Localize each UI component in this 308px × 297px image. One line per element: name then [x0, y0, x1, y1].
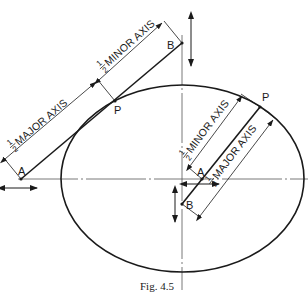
- trammel-1: 1 2 MAJOR AXIS 1 2 MINOR AXIS A P B: [3, 15, 191, 188]
- trammel-2-strip: [182, 107, 260, 204]
- trammel-2-major-axis-label: MAJOR AXIS: [210, 122, 259, 181]
- trammel-ellipse-diagram: 1 2 MAJOR AXIS 1 2 MINOR AXIS A P B: [0, 0, 308, 297]
- trammel-1-point-p: [113, 99, 116, 102]
- trammel-1-label-p: P: [114, 104, 121, 116]
- trammel-1-minor-axis-label: MINOR AXIS: [102, 17, 157, 68]
- figure-caption: Fig. 4.5: [140, 280, 174, 292]
- trammel-2-point-p: [258, 105, 261, 108]
- trammel-2-label-b: B: [186, 199, 193, 211]
- trammel-1-label-a: A: [18, 165, 26, 177]
- trammel-1-extension-p: [97, 79, 115, 101]
- trammel-2-minor-axis-label: MINOR AXIS: [183, 97, 231, 155]
- trammel-2-extension-p-left: [241, 94, 260, 107]
- trammel-2-label-p: P: [262, 91, 269, 103]
- ellipse-curve: [61, 85, 304, 272]
- trammel-1-major-axis-label: MAJOR AXIS: [12, 96, 69, 147]
- trammel-1-point-a: [19, 177, 22, 180]
- trammel-2-extension-p-right: [260, 107, 275, 118]
- trammel-2: 1 2 MINOR AXIS 1 2 MAJOR AXIS A P B: [175, 91, 275, 222]
- trammel-1-point-b: [180, 41, 183, 44]
- trammel-2-label-a: A: [197, 166, 205, 178]
- trammel-1-label-b: B: [167, 39, 174, 51]
- trammel-2-point-b: [180, 202, 183, 205]
